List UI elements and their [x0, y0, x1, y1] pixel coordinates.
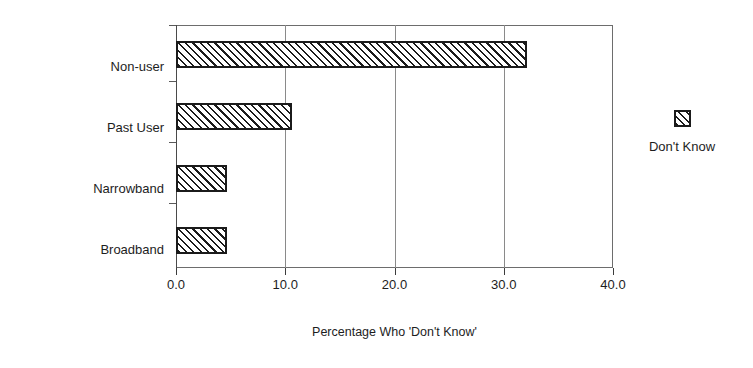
- plot-frame-right: [612, 25, 613, 268]
- y-minor-tick-1: [169, 81, 176, 82]
- y-minor-tick-3: [169, 203, 176, 204]
- legend-label-dont-know: Don't Know: [622, 139, 742, 154]
- y-axis-tick-labels: Non-user Past User Narrowband Broadband: [62, 25, 170, 268]
- y-minor-tick-0: [169, 25, 176, 26]
- x-tick-0: [176, 268, 177, 275]
- bar-narrowband: [176, 165, 227, 192]
- x-tick-label-30: 30.0: [474, 277, 534, 292]
- x-tick-label-10: 10.0: [255, 277, 315, 292]
- x-tick-label-20: 20.0: [365, 277, 425, 292]
- bar-past-user: [176, 103, 292, 130]
- x-tick-20: [395, 268, 396, 275]
- bar-non-user: [176, 41, 527, 68]
- y-tick-label-broadband: Broadband: [100, 241, 164, 259]
- legend-swatch-dont-know: [674, 110, 691, 127]
- bar-broadband: [176, 227, 227, 254]
- y-tick-label-non-user: Non-user: [111, 58, 164, 76]
- x-tick-label-0: 0.0: [146, 277, 206, 292]
- x-axis-title: Percentage Who 'Don't Know': [176, 325, 613, 339]
- x-tick-30: [504, 268, 505, 275]
- x-tick-40: [613, 268, 614, 275]
- y-tick-label-narrowband: Narrowband: [93, 180, 164, 198]
- x-tick-10: [285, 268, 286, 275]
- plot-area: 0.0 10.0 20.0 30.0 40.0: [176, 25, 613, 268]
- y-tick-label-past-user: Past User: [107, 119, 164, 137]
- chart-legend: Don't Know: [622, 110, 742, 154]
- x-tick-label-40: 40.0: [583, 277, 643, 292]
- bar-chart-figure: Type of user/non-user Non-user Past User…: [0, 0, 753, 368]
- y-minor-tick-2: [169, 142, 176, 143]
